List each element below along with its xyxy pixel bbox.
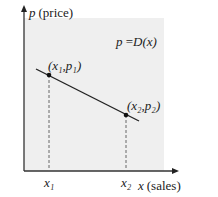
x-axis-label: x(sales) xyxy=(137,178,181,193)
y-axis-arrow-icon xyxy=(21,5,27,12)
point-1 xyxy=(47,73,52,78)
x1-tick-label: x₁ xyxy=(43,175,54,190)
point-2 xyxy=(124,113,129,118)
x2-tick-label: x₂ xyxy=(120,175,132,190)
y-axis-label: p(price) xyxy=(28,5,73,20)
point-2-label: (x₂,p₂) xyxy=(127,98,160,113)
equation-label: p =D(x) xyxy=(115,34,157,49)
demand-diagram: p(price) x(sales) p =D(x) (x₁,p₁) (x₂,p₂… xyxy=(0,0,218,197)
x-axis-arrow-icon xyxy=(172,168,179,174)
point-1-label: (x₁,p₁) xyxy=(48,58,81,73)
